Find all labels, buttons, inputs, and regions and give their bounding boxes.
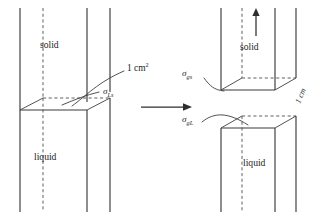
interface-leader-line	[62, 92, 99, 105]
sigma-gl-label: σgL	[182, 114, 194, 126]
interface-left-receding-edge	[20, 98, 43, 110]
rsolid-bottom-left-receding-edge	[221, 78, 242, 90]
left-liquid-label: liquid	[34, 151, 57, 162]
separation-arrow-head	[183, 103, 192, 111]
figure-canvas: solid liquid 1 cm2 σLs solid	[0, 0, 317, 218]
gap-dimension-group: 1 cm	[294, 87, 308, 105]
interfacial-tension-figure: solid liquid 1 cm2 σLs solid	[0, 0, 317, 218]
left-solid-label: solid	[40, 39, 59, 50]
pull-arrow-head	[252, 8, 259, 16]
sigma-gs-label: σgs	[182, 68, 193, 80]
rliquid-top-right-receding-edge	[275, 116, 296, 128]
area-leader-line	[72, 71, 124, 106]
right-panel-group: solid σgs σgL liquid 1 cm	[182, 8, 308, 212]
right-solid-label: solid	[240, 41, 259, 52]
gap-label: 1 cm	[294, 87, 308, 105]
rsolid-bottom-right-receding-edge	[275, 78, 296, 90]
right-liquid-label: liquid	[243, 157, 266, 168]
area-label: 1 cm2	[127, 61, 149, 73]
left-panel-group: solid liquid 1 cm2 σLs	[20, 8, 149, 212]
interface-right-receding-edge	[87, 98, 110, 110]
transform-arrow-group	[141, 103, 192, 111]
rliquid-top-left-receding-edge	[221, 116, 242, 128]
sigma-ls-label: σLs	[103, 86, 114, 98]
